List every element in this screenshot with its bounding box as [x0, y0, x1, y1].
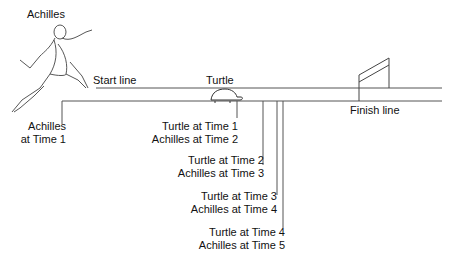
finish-hurdle-icon: [359, 58, 389, 101]
achilles-time1-label-line1: Achilles: [28, 120, 66, 133]
turtle-time1-label: Turtle at Time 1: [162, 120, 238, 133]
finish-line-label: Finish line: [350, 104, 400, 117]
turtle-time4-label: Turtle at Time 4: [209, 226, 285, 239]
achilles-time3-label: Achilles at Time 3: [178, 167, 264, 180]
start-line-label: Start line: [93, 74, 136, 87]
achilles-time1-label-line2: at Time 1: [21, 133, 66, 146]
turtle-label: Turtle: [206, 74, 234, 87]
turtle-time2-label: Turtle at Time 2: [188, 154, 264, 167]
achilles-time5-label: Achilles at Time 5: [199, 239, 285, 252]
turtle-time3-label: Turtle at Time 3: [201, 190, 277, 203]
achilles-time4-label: Achilles at Time 4: [191, 203, 277, 216]
achilles-label: Achilles: [27, 8, 65, 21]
achilles-runner-icon: [12, 25, 92, 112]
achilles-time2-label: Achilles at Time 2: [152, 133, 238, 146]
